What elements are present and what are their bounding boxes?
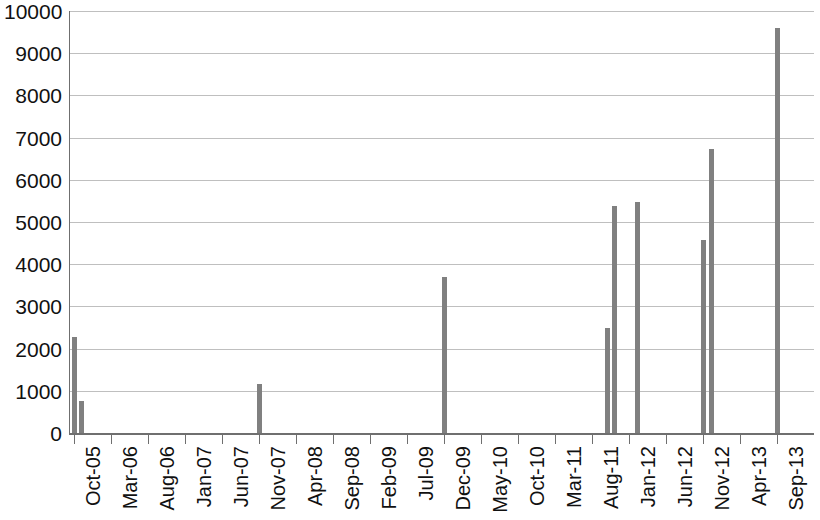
bar	[79, 401, 84, 433]
y-axis-tick-label: 1000	[4, 380, 62, 401]
gridline	[70, 138, 814, 139]
bar	[605, 328, 610, 434]
x-axis-tick	[407, 435, 408, 444]
x-axis-tick	[74, 435, 75, 444]
x-axis-tick-label: Mar-11	[564, 446, 584, 508]
x-axis-tick	[740, 435, 741, 444]
y-axis-tick-label: 0	[4, 423, 62, 444]
y-axis-tick-label: 5000	[4, 212, 62, 233]
x-axis-tick	[555, 435, 556, 444]
x-axis-tick-label: May-10	[490, 446, 510, 513]
y-axis-tick-labels: 1000090008000700060005000400030002000100…	[0, 0, 62, 445]
gridline	[70, 180, 814, 181]
x-axis-tick	[481, 435, 482, 444]
gridline	[70, 53, 814, 54]
x-axis-tick-label: Sep-08	[342, 446, 362, 511]
x-axis-tick-label: Jun-12	[675, 446, 695, 507]
x-axis-tick	[259, 435, 260, 444]
gridline	[70, 222, 814, 223]
x-axis-tick-label: Nov-07	[268, 446, 288, 510]
x-axis-tick-label: Jan-12	[638, 446, 658, 507]
y-axis-tick-label: 4000	[4, 254, 62, 275]
bar	[701, 240, 706, 433]
x-axis-tick-label: Oct-10	[527, 446, 547, 506]
y-axis-tick-label: 8000	[4, 85, 62, 106]
y-axis-tick-label: 3000	[4, 296, 62, 317]
x-axis-tick	[703, 435, 704, 444]
x-axis-tick	[111, 435, 112, 444]
x-axis-tick	[666, 435, 667, 444]
bar	[775, 28, 780, 433]
x-axis-tick	[370, 435, 371, 444]
y-axis-tick-label: 6000	[4, 169, 62, 190]
bar	[709, 149, 714, 433]
bar	[72, 337, 77, 433]
x-axis-tick-label: Aug-06	[157, 446, 177, 511]
x-axis-tick-label: Feb-09	[379, 446, 399, 509]
x-axis-tick-label: Jul-09	[416, 446, 436, 500]
x-axis-tick-label: Sep-13	[786, 446, 806, 511]
bar	[635, 202, 640, 433]
x-axis-tick	[444, 435, 445, 444]
plot-area	[70, 11, 814, 433]
x-axis-tick	[296, 435, 297, 444]
x-axis-tick	[777, 435, 778, 444]
x-axis-tick	[518, 435, 519, 444]
x-axis-tick-label: Apr-08	[305, 446, 325, 506]
x-axis-tick-label: Aug-11	[601, 446, 621, 509]
x-axis-tick-label: Jan-07	[194, 446, 214, 507]
gridline	[70, 95, 814, 96]
x-axis-tick-label: Dec-09	[453, 446, 473, 510]
x-axis-tick-label: Nov-12	[712, 446, 732, 510]
gridline	[70, 11, 814, 12]
y-axis-line	[69, 11, 70, 435]
x-axis-tick-label: Apr-13	[749, 446, 769, 506]
x-axis-tick	[148, 435, 149, 444]
x-axis-tick-label: Oct-05	[83, 446, 103, 506]
x-axis-tick-label: Jun-07	[231, 446, 251, 507]
x-axis-tick	[333, 435, 334, 444]
bar	[257, 384, 262, 433]
x-axis-tick	[629, 435, 630, 444]
y-axis-tick-label: 10000	[4, 1, 62, 22]
y-axis-tick-label: 2000	[4, 338, 62, 359]
x-axis-tick-label: Mar-06	[120, 446, 140, 509]
x-axis-tick-labels: Oct-05Mar-06Aug-06Jan-07Jun-07Nov-07Apr-…	[70, 446, 814, 520]
x-axis-tick	[185, 435, 186, 444]
bar	[442, 277, 447, 433]
bar-chart: 1000090008000700060005000400030002000100…	[0, 0, 820, 520]
y-axis-tick-label: 7000	[4, 127, 62, 148]
x-axis-tick	[592, 435, 593, 444]
y-axis-tick-label: 9000	[4, 43, 62, 64]
x-axis-tick	[222, 435, 223, 444]
bar	[612, 206, 617, 433]
